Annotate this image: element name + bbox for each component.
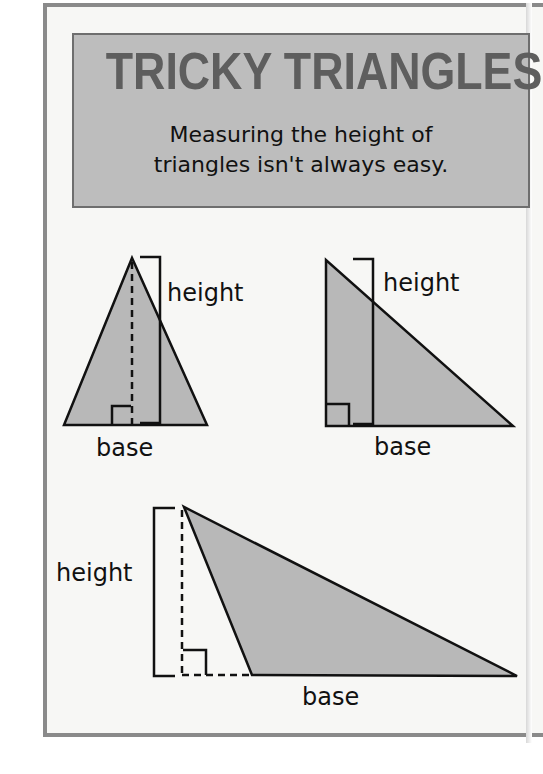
base-label-1: base bbox=[96, 434, 153, 462]
right-angle-marker bbox=[183, 650, 206, 675]
obtuse-triangle bbox=[154, 507, 517, 676]
base-label-2: base bbox=[374, 433, 431, 461]
height-label-3: height bbox=[56, 559, 133, 587]
base-label-3: base bbox=[302, 683, 359, 711]
height-bracket bbox=[154, 508, 175, 676]
height-label-2: height bbox=[383, 269, 460, 297]
height-label-1: height bbox=[167, 279, 244, 307]
